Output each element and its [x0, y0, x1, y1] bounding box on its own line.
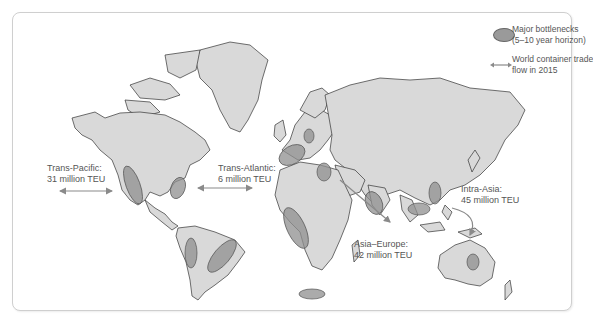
label-intra-asia: Intra-Asia: 45 million TEU: [461, 184, 519, 206]
new-zealand: [505, 280, 512, 300]
uk: [274, 120, 286, 142]
legend: Major bottlenecks (5–10 year horizon) Wo…: [460, 24, 570, 84]
legend-bottleneck: Major bottlenecks (5–10 year horizon): [460, 24, 570, 54]
legend-bottleneck-line2: (5–10 year horizon): [512, 35, 586, 46]
label-asia-europe: Asia–Europe: 42 million TEU: [354, 239, 412, 261]
central-america: [145, 200, 178, 230]
bottleneck-south-africa: [299, 289, 325, 299]
arctic-islands: [165, 50, 200, 78]
bottleneck-strait-malacca: [408, 203, 430, 215]
trans-atlantic-name: Trans-Atlantic:: [218, 163, 276, 174]
bottleneck-australia-east: [467, 254, 479, 270]
trans-pacific-name: Trans-Pacific:: [47, 163, 105, 174]
legend-bottleneck-line1: Major bottlenecks: [512, 24, 586, 35]
greenland: [196, 42, 268, 132]
legend-flow-line2: flow in 2015: [512, 65, 593, 76]
bottleneck-baltic: [304, 129, 314, 143]
intra-asia-value: 45 million TEU: [461, 195, 519, 206]
legend-flow-line1: World container trade: [512, 54, 593, 65]
trans-atlantic-value: 6 million TEU: [218, 174, 276, 185]
double-arrow-icon: [490, 61, 512, 69]
bottleneck-chile: [185, 238, 197, 268]
label-trans-pacific: Trans-Pacific: 31 million TEU: [47, 163, 105, 185]
australia: [438, 240, 495, 286]
bottleneck-east-med: [317, 163, 331, 181]
asia-europe-name: Asia–Europe:: [354, 239, 412, 250]
bottleneck-china-coast: [429, 182, 441, 204]
label-trans-atlantic: Trans-Atlantic: 6 million TEU: [218, 163, 276, 185]
intra-asia-name: Intra-Asia:: [461, 184, 519, 195]
asia-europe-value: 42 million TEU: [354, 250, 412, 261]
trans-pacific-value: 31 million TEU: [47, 174, 105, 185]
legend-flow: World container trade flow in 2015: [460, 54, 570, 84]
